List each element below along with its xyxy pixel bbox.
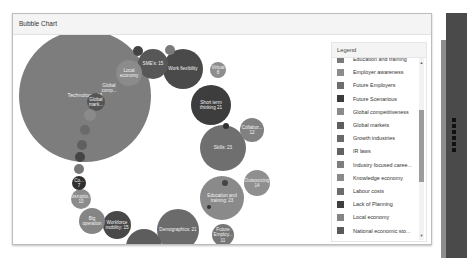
square-icon[interactable] <box>452 136 456 140</box>
legend-scrollbar[interactable]: ▲ ▼ <box>419 58 424 240</box>
legend-item[interactable]: IR laws <box>337 145 371 157</box>
legend-item[interactable]: Knowledge economy <box>337 172 403 184</box>
legend-swatch <box>337 148 344 155</box>
bubble[interactable] <box>75 152 85 162</box>
bubble-label: Short term thinking 21 <box>191 100 231 110</box>
legend-label: Global competitiveness <box>353 109 409 115</box>
square-icon[interactable] <box>452 124 456 128</box>
bubble[interactable]: Demographics: 21 <box>157 209 199 244</box>
bubble[interactable] <box>80 125 90 135</box>
bubble[interactable]: Outsourcing 14 <box>244 170 270 196</box>
bubble[interactable] <box>165 45 175 55</box>
legend-swatch <box>337 95 344 102</box>
bubble[interactable]: Local economy <box>116 60 142 86</box>
bubble[interactable] <box>133 46 143 56</box>
scroll-down-icon[interactable]: ▼ <box>419 233 424 238</box>
legend-item[interactable]: Future Scenarious <box>337 93 397 105</box>
bubble[interactable]: Big operation <box>79 208 105 234</box>
legend-label: Global markets <box>353 122 389 128</box>
legend-label: Education and training <box>353 58 407 62</box>
bubble[interactable]: Co... 7 <box>72 176 86 190</box>
bubble-label: Global comp... <box>100 83 118 93</box>
legend-label: National economic sto... <box>353 228 411 234</box>
bubble[interactable]: Virtual 8 <box>210 62 226 78</box>
legend-item[interactable]: Local economy <box>337 211 389 223</box>
legend-list: Education and trainingEmployer awareness… <box>332 58 418 240</box>
bubble-label: Education and training: 23 <box>200 193 244 203</box>
legend-swatch <box>337 108 344 115</box>
bubble[interactable] <box>207 205 211 209</box>
legend-swatch <box>337 122 344 129</box>
legend-swatch <box>337 227 344 234</box>
panel-title: Bubble Chart <box>13 14 431 35</box>
legend-item[interactable]: Employer awareness <box>337 66 403 78</box>
bubble[interactable]: SME's: 15 <box>138 49 168 79</box>
bubble-label: Local economy <box>116 68 142 78</box>
square-icon[interactable] <box>452 118 456 122</box>
bubble-label: Global mark... <box>87 97 105 107</box>
bubble-label: Big operation <box>79 216 105 226</box>
square-icon[interactable] <box>452 142 456 146</box>
bubble-label: Co... 7 <box>72 178 86 188</box>
legend-label: Knowledge economy <box>353 175 403 181</box>
legend-swatch <box>337 201 344 208</box>
legend-label: Labour costs <box>353 188 384 194</box>
legend-item[interactable]: Global markets <box>337 119 389 131</box>
legend-label: Future Employers <box>353 82 396 88</box>
legend-swatch <box>337 69 344 76</box>
scroll-up-icon[interactable]: ▲ <box>419 60 424 65</box>
legend-item[interactable]: Lack of Planning <box>337 198 393 210</box>
legend-item[interactable]: Industry focused caree... <box>337 159 412 171</box>
bubble-label: Future Employ... 11 <box>212 227 234 243</box>
bubble-label: Disruptio... 10 <box>71 194 91 204</box>
bubble-label: Work flexibility <box>166 66 199 71</box>
bubble-label: Virtual 8 <box>210 65 226 75</box>
bubble-label: SME's: 15 <box>141 61 166 66</box>
legend-title: Legend <box>332 43 426 58</box>
bubble[interactable] <box>77 140 87 150</box>
legend-label: IR laws <box>353 148 371 154</box>
legend-label: Growth industries <box>353 135 395 141</box>
legend-swatch <box>337 214 344 221</box>
bubble-label: Skills: 23 <box>212 145 234 150</box>
bubble-chart-area: Technology: 68Short term thinking 21Skil… <box>13 35 331 244</box>
bubble[interactable]: Skills: 23 <box>200 125 246 171</box>
legend-swatch <box>337 135 344 142</box>
bubble[interactable]: Future Employ... 11 <box>212 224 234 244</box>
legend-panel: Legend Education and trainingEmployer aw… <box>331 42 427 242</box>
legend-scroll-thumb[interactable] <box>419 110 424 182</box>
bubble[interactable]: Disruptio... 10 <box>71 189 91 209</box>
bubble[interactable] <box>223 123 229 129</box>
bubble-chart-panel: Bubble Chart Technology: 68Short term th… <box>12 13 432 245</box>
bubble[interactable]: Global comp... <box>100 79 118 97</box>
bubble-label: Workforce mobility: 15 <box>103 220 131 230</box>
side-toolbar-icons <box>452 118 457 154</box>
legend-item[interactable]: Future Employers <box>337 79 396 91</box>
square-icon[interactable] <box>452 130 456 134</box>
legend-item[interactable]: National economic sto... <box>337 225 411 237</box>
bubble[interactable] <box>222 180 228 186</box>
square-icon[interactable] <box>452 148 456 152</box>
bubble[interactable]: Collabor... 12 <box>240 118 264 142</box>
legend-label: Employer awareness <box>353 69 403 75</box>
legend-item[interactable]: Growth industries <box>337 132 395 144</box>
bubble[interactable]: Short term thinking 21 <box>191 85 231 125</box>
legend-label: Industry focused caree... <box>353 162 412 168</box>
legend-item[interactable]: Global competitiveness <box>337 106 409 118</box>
bubble[interactable]: Workforce mobility: 15 <box>103 211 131 239</box>
legend-swatch <box>337 188 344 195</box>
legend-swatch <box>337 82 344 89</box>
legend-item[interactable]: Labour costs <box>337 185 384 197</box>
bubble[interactable] <box>84 109 96 121</box>
bubble[interactable] <box>74 164 84 174</box>
bubble-label: Collabor... 12 <box>240 125 264 135</box>
legend-item[interactable]: Education and training <box>337 58 407 65</box>
bubble-label: Demographics: 21 <box>157 227 198 232</box>
legend-label: Local economy <box>353 214 389 220</box>
legend-swatch <box>337 161 344 168</box>
legend-swatch <box>337 174 344 181</box>
legend-label: Lack of Planning <box>353 201 393 207</box>
bubble[interactable]: Work flexibility <box>163 49 203 89</box>
legend-swatch <box>337 58 344 63</box>
legend-label: Future Scenarious <box>353 96 397 102</box>
